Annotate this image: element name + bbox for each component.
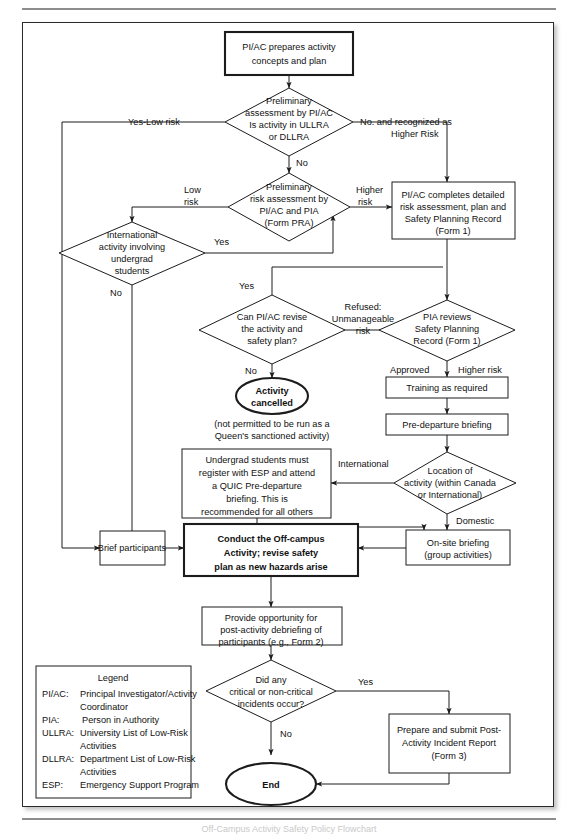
label-low-risk-0: Low [184, 185, 201, 195]
node-start-line-0: PI/AC prepares activity [242, 42, 336, 52]
label-higher-risk-1: risk [358, 197, 373, 207]
label-low-risk-1: risk [184, 197, 199, 207]
legend-key-ullra: ULLRA: [42, 728, 74, 738]
node-conduct-line-1: Activity; revise safety [224, 548, 319, 558]
legend-val-pia-0: Person in Authority [82, 715, 160, 725]
node-international-activity: International activity involving undergr… [59, 222, 205, 285]
label-intl-no: No [110, 288, 122, 298]
node-revise-line-2: safety plan? [247, 336, 297, 346]
node-cancelled-line-1: cancelled [251, 398, 293, 408]
node-activity-cancelled: Activity cancelled [236, 378, 308, 414]
legend-val-ullra-0: University List of Low-Risk [80, 728, 188, 738]
node-preliminary-assessment-line-1: assessment by PI/AC [245, 108, 333, 118]
node-brief-line-0: Brief participants [98, 543, 167, 553]
legend-val-piac-0: Principal Investigator/Activity [80, 689, 197, 699]
node-location-line-1: activity (within Canada [404, 478, 497, 488]
annotation-not-permitted: (not permitted to be run as a Queen's sa… [214, 419, 330, 441]
label-domestic: Domestic [456, 516, 495, 526]
label-no-higher-risk-1: Higher Risk [391, 129, 439, 139]
legend-key-dllra: DLLRA: [42, 754, 74, 764]
edge-revise-yes-join [272, 267, 443, 295]
label-yes-low-risk: Yes-Low risk [128, 117, 180, 127]
node-incidents-occurred: Did any critical or non-critical inciden… [206, 660, 336, 722]
node-conduct-line-2: plan as new hazards arise [214, 562, 327, 572]
node-intl-line-2: undergrad [111, 254, 153, 264]
legend-val-ullra-1: Activities [80, 741, 117, 751]
label-intl-yes: Yes [214, 237, 229, 247]
flowchart-diagram: PI/AC prepares activity concepts and pla… [0, 0, 578, 835]
legend-val-piac-1: Coordinator [80, 702, 128, 712]
node-revise-line-1: the activity and [241, 324, 302, 334]
node-preliminary-risk-assessment: Preliminary risk assessment by PI/AC and… [228, 173, 350, 241]
node-preliminary-risk-line-1: risk assessment by [250, 194, 329, 204]
node-cancelled-line-0: Activity [255, 386, 289, 396]
node-esp-line-1: register with ESP and attend [199, 468, 315, 478]
node-end-label: End [262, 780, 279, 790]
node-detailed-line-2: Safety Planning Record [405, 214, 502, 224]
node-location-line-2: or International) [418, 490, 482, 500]
bottom-divider [22, 818, 556, 820]
legend-key-esp: ESP: [42, 780, 63, 790]
label-international: International [338, 459, 389, 469]
node-preliminary-risk-line-3: (Form PRA) [265, 218, 314, 228]
node-incidents-line-0: Did any [255, 675, 287, 685]
node-preliminary-assessment-line-0: Preliminary [266, 96, 312, 106]
edge-report-to-end [316, 773, 449, 784]
node-preliminary-assessment-line-3: or DLLRA [269, 132, 310, 142]
node-pre-departure-briefing: Pre-departure briefing [386, 414, 508, 435]
legend-val-dllra-0: Department List of Low-Risk [80, 754, 196, 764]
node-training-line-0: Training as required [406, 383, 487, 393]
node-brief-participants: Brief participants [98, 531, 167, 565]
node-report-line-1: Activity Incident Report [402, 738, 496, 748]
node-esp-line-4: recommended for all others [201, 507, 313, 517]
legend-val-dllra-1: Activities [80, 767, 117, 777]
node-onsite-line-1: (group activities) [424, 550, 491, 560]
label-refused-1: Unmanageable [332, 314, 394, 324]
label-revise-no: No [245, 366, 257, 376]
node-esp-line-3: briefing. This is [226, 494, 288, 504]
node-conduct-activity: Conduct the Off-campus Activity; revise … [184, 524, 358, 576]
label-prelim-no: No [296, 158, 308, 168]
node-debrief-line-0: Provide opportunity for [225, 613, 317, 623]
page-canvas: PI/AC prepares activity concepts and pla… [0, 0, 578, 835]
legend-val-esp-0: Emergency Support Program [80, 780, 199, 790]
annotation-not-permitted-line-0: (not permitted to be run as a [214, 419, 330, 429]
node-on-site-briefing: On-site briefing (group activities) [406, 530, 510, 565]
node-preliminary-risk-line-2: PI/AC and PIA [259, 206, 319, 216]
label-revise-yes: Yes [239, 281, 254, 291]
node-intl-line-3: students [115, 266, 150, 276]
node-intl-line-0: International [107, 230, 158, 240]
edge-incident-yes [336, 691, 449, 714]
node-debriefing: Provide opportunity for post-activity de… [202, 607, 342, 647]
node-incidents-line-1: critical or non-critical [229, 687, 313, 697]
node-report-line-0: Prepare and submit Post- [397, 725, 501, 735]
label-refused-0: Refused: [345, 302, 382, 312]
node-end: End [226, 763, 316, 805]
node-detailed-line-0: PI/AC completes detailed [401, 190, 504, 200]
node-pia-line-1: Safety Planning [415, 324, 479, 334]
node-intl-line-1: activity involving [99, 242, 165, 252]
label-approved: Approved [390, 365, 429, 375]
node-can-revise: Can PI/AC revise the activity and safety… [199, 295, 345, 364]
node-location-of-activity: Location of activity (within Canada or I… [394, 452, 516, 514]
legend-box: Legend PI/AC: Principal Investigator/Act… [36, 666, 199, 798]
node-incident-report: Prepare and submit Post- Activity Incide… [389, 714, 510, 773]
edge-low-risk [132, 207, 228, 222]
node-location-line-0: Location of [428, 466, 473, 476]
legend-key-piac: PI/AC: [42, 689, 69, 699]
figure-caption: Off-Campus Activity Safety Policy Flowch… [0, 824, 578, 834]
node-preliminary-risk-line-0: Preliminary [266, 182, 312, 192]
node-debrief-line-2: participants (e.g., Form 2) [218, 637, 323, 647]
legend-title: Legend [98, 673, 129, 683]
node-pia-line-0: PIA reviews [423, 312, 471, 322]
node-start-line-1: concepts and plan [252, 56, 327, 66]
node-pia-reviews: PIA reviews Safety Planning Record (Form… [379, 300, 515, 361]
label-higher-risk-0: Higher [356, 185, 383, 195]
node-onsite-line-0: On-site briefing [427, 538, 489, 548]
node-predeparture-line-0: Pre-departure briefing [402, 420, 491, 430]
label-no-higher-risk-0: No. and recognized as [360, 117, 452, 127]
node-debrief-line-1: post-activity debriefing of [220, 625, 322, 635]
legend-key-pia: PIA: [42, 715, 59, 725]
node-start: PI/AC prepares activity concepts and pla… [225, 32, 353, 75]
node-report-line-2: (Form 3) [431, 751, 466, 761]
